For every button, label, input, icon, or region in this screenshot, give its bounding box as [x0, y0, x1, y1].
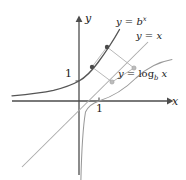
y-axis-label: y [85, 13, 91, 24]
point-exp-lower [90, 65, 94, 69]
reflection-segment-exp-chord [92, 47, 107, 67]
annotation-logarithm-fn: log [138, 68, 154, 79]
reflection-segment-lower [92, 67, 112, 82]
annotation-exponential-equals: = [125, 16, 133, 27]
y-axis [76, 16, 83, 176]
reflection-segment-upper [107, 47, 134, 68]
annotation-logarithm: y = logb x [118, 69, 167, 82]
x-axis-label: x [172, 96, 178, 107]
y-axis-arrowhead [76, 16, 83, 23]
annotation-exponential: y = bx [116, 16, 147, 27]
point-log-lower [110, 80, 114, 84]
annotation-exponential-exponent: x [143, 15, 147, 23]
annotation-logarithm-arg: x [162, 68, 168, 79]
curve-identity-line [22, 42, 148, 167]
annotation-identity-equals: = [145, 30, 153, 41]
annotation-logarithm-equals: = [127, 68, 135, 79]
plot-canvas [0, 0, 186, 180]
point-exp-upper [105, 45, 109, 49]
annotation-identity: y = x [136, 31, 162, 41]
y-axis-tick-label-1: 1 [65, 68, 72, 79]
math-figure-exponential-logarithm: y x 1 1 y = bx y = x y = logb x [0, 0, 186, 180]
x-axis-tick-label-1: 1 [96, 103, 103, 114]
annotation-identity-rhs: x [156, 30, 162, 41]
